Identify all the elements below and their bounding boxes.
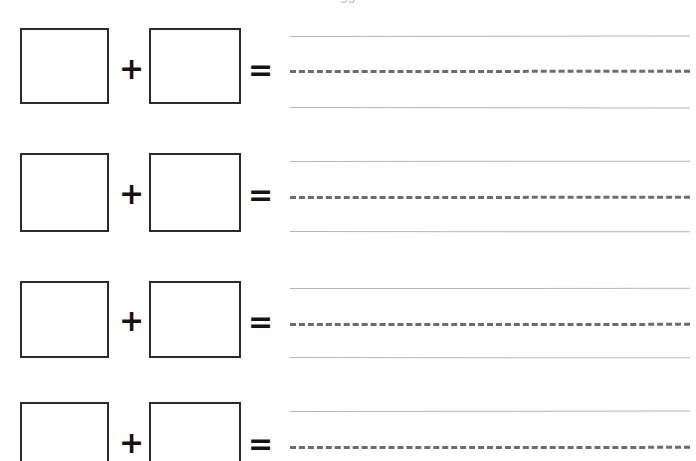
guide-line-bottom (290, 357, 690, 358)
addend-box-a[interactable] (20, 281, 109, 358)
plus-operator: + (119, 306, 144, 336)
guide-line-middle-dashed (290, 446, 690, 449)
guide-line-top (290, 288, 690, 289)
guide-line-top (290, 36, 690, 37)
page-title-cropped: gg (0, 0, 696, 3)
equals-operator: = (248, 180, 273, 210)
guide-line-top (290, 161, 690, 162)
guide-line-top (290, 411, 690, 412)
addend-box-a[interactable] (20, 153, 109, 232)
worksheet-page: gg +=+=+=+= (0, 0, 696, 461)
addend-box-b[interactable] (149, 153, 241, 232)
guide-line-bottom (290, 231, 690, 232)
guide-line-bottom (290, 107, 690, 108)
plus-operator: + (119, 428, 144, 458)
addend-box-b[interactable] (149, 28, 241, 104)
guide-line-middle-dashed (290, 196, 690, 199)
addend-box-b[interactable] (149, 281, 241, 358)
addend-box-a[interactable] (20, 28, 109, 104)
guide-line-middle-dashed (290, 323, 690, 326)
equals-operator: = (248, 429, 273, 459)
equals-operator: = (248, 55, 273, 85)
equals-operator: = (248, 307, 273, 337)
addend-box-a[interactable] (20, 402, 109, 461)
plus-operator: + (119, 179, 144, 209)
addend-box-b[interactable] (149, 402, 241, 461)
plus-operator: + (119, 54, 144, 84)
guide-line-middle-dashed (290, 70, 690, 73)
